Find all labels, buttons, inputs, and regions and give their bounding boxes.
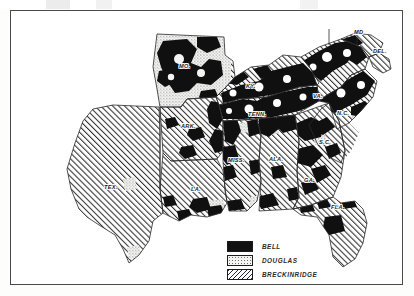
legend-swatch-douglas [227,255,253,266]
legend-row-bell: BELL [227,240,351,253]
map-frame-border: TEX. ARK. LA. MISS. ALA. GA. FLA. TENN. … [10,10,403,285]
legend-row-breckinridge: BRECKINRIDGE [227,268,351,281]
legend-label-breckinridge: BRECKINRIDGE [262,271,317,278]
legend-label-douglas: DOUGLAS [262,257,297,264]
legend-swatch-bell [227,241,253,252]
map-figure: TEX. ARK. LA. MISS. ALA. GA. FLA. TENN. … [0,0,414,296]
legend-row-douglas: DOUGLAS [227,254,351,267]
scan-artifact [0,0,414,9]
legend-swatch-breckinridge [227,269,253,280]
legend-label-bell: BELL [262,243,281,250]
map-legend: BELL DOUGLAS BRECKINRIDGE [227,240,351,282]
